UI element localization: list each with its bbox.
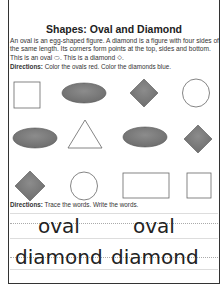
diamond-shape[interactable] [184,125,212,153]
square-shape[interactable] [14,82,40,108]
oval-shape[interactable] [13,128,57,148]
oval-shape[interactable] [62,83,106,103]
baseline [10,269,218,270]
baseline [10,238,218,239]
shapes-grid [0,0,222,287]
square-shape[interactable] [187,173,211,198]
circle-shape[interactable] [71,172,98,200]
trace-word: diamond [15,245,103,269]
directions-text: Trace the words. Write the words. [43,201,138,208]
oval-shape[interactable] [123,127,167,147]
trace-word: diamond [111,245,199,269]
circle-shape[interactable] [183,79,210,107]
trace-word: oval [133,214,175,238]
diamond-shape[interactable] [15,171,45,201]
directions-label: Directions: [10,201,43,208]
triangle-shape[interactable] [68,120,102,148]
diamond-shape[interactable] [130,79,158,107]
directions-trace: Directions: Trace the words. Write the w… [10,201,138,208]
trace-word: oval [38,214,80,238]
rectangle-shape[interactable] [123,173,169,198]
